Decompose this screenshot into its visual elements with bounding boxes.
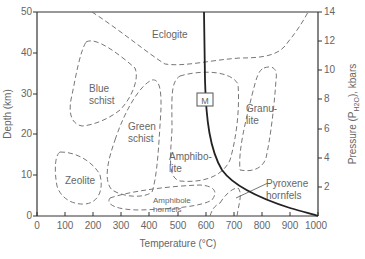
hornfels-divider-boundary [210, 203, 220, 216]
temperature-tick: 400 [141, 220, 158, 231]
pyroxene-hornfels-label-line2: hornfels [266, 190, 302, 201]
temperature-tick: 300 [113, 220, 130, 231]
bottom-tick-labels: 0 100 200 300 400 500 600 700 800 900 10… [34, 220, 327, 231]
temperature-tick: 0 [34, 220, 40, 231]
depth-axis-title: Depth (km) [2, 89, 13, 138]
pressure-tick: 6 [324, 123, 330, 134]
pyroxene-hornfels-pointer [236, 183, 268, 198]
granulite-label-line2: lite [246, 115, 259, 126]
temperature-tick: 1000 [305, 220, 328, 231]
pyroxene-hornfels-label-line1: Pyroxene [266, 178, 309, 189]
temperature-tick: 900 [282, 220, 299, 231]
green-schist-label-line1: Green [128, 121, 156, 132]
pressure-title-start: Pressure (P [347, 111, 358, 164]
eclogite-label: Eclogite [152, 29, 188, 40]
pressure-tick: 10 [324, 64, 336, 75]
facies-diagram: 0 10 20 30 40 50 Depth (km) 2 4 6 8 10 1… [0, 0, 365, 259]
hornfels-loop-boundary [220, 188, 240, 216]
melting-curve-label: M [201, 96, 209, 106]
temperature-tick: 200 [85, 220, 102, 231]
depth-tick: 10 [21, 169, 33, 180]
pressure-tick: 14 [324, 6, 336, 17]
temperature-tick: 500 [170, 220, 187, 231]
depth-tick: 0 [26, 210, 32, 221]
temperature-tick: 600 [198, 220, 215, 231]
pressure-tick: 4 [324, 152, 330, 163]
temperature-tick: 800 [254, 220, 271, 231]
depth-tick: 20 [21, 128, 33, 139]
pressure-title-sub: H2O [353, 97, 360, 112]
blue-schist-label-line1: Blue [89, 83, 109, 94]
pressure-tick: 12 [324, 35, 336, 46]
amphibolite-label-line1: Amphibo- [169, 151, 212, 162]
depth-tick: 30 [21, 88, 33, 99]
temperature-tick: 700 [226, 220, 243, 231]
temperature-axis-title: Temperature (°C) [140, 238, 217, 249]
amphibole-hornfels-label-line1: Amphibole [153, 196, 191, 205]
left-tick-labels: 0 10 20 30 40 50 [21, 6, 33, 221]
granulite-label-line1: Granu- [246, 103, 277, 114]
eclogite-boundary [92, 12, 308, 65]
green-schist-label-line2: schist [128, 133, 154, 144]
pressure-tick: 2 [324, 181, 330, 192]
depth-tick: 40 [21, 47, 33, 58]
blue-schist-label-line2: schist [89, 95, 115, 106]
amphibolite-label-line2: lite [169, 163, 182, 174]
depth-tick: 50 [21, 6, 33, 17]
temperature-tick: 100 [57, 220, 74, 231]
zeolite-label: Zeolite [65, 175, 95, 186]
melting-curve-marker: M [197, 93, 213, 106]
right-tick-labels: 2 4 6 8 10 12 14 [324, 6, 336, 192]
pressure-axis-title: Pressure (PH2O), kbars [347, 64, 360, 165]
pressure-title-end: ), kbars [347, 64, 358, 97]
pressure-tick: 8 [324, 93, 330, 104]
amphibole-hornfels-label-line2: hornfels [153, 205, 181, 214]
